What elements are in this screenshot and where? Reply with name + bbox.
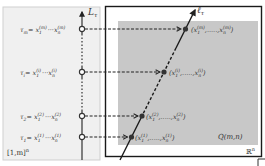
axis-point-2: [79, 113, 84, 118]
corner-mark: [258, 159, 265, 166]
mapped-label-i: (x1(i),.....,xn(i)): [169, 68, 206, 78]
row-tau-2: τ2= x1(2)···xn(2) (x1(2),.....,xn(2)): [20, 112, 186, 122]
mapped-point-2: [139, 113, 144, 118]
axis-point-1: [79, 134, 84, 139]
mapped-point-1: [129, 134, 134, 139]
tau-i-label: τi= x1(i)···xn(i): [20, 68, 57, 78]
mapped-point-m: [183, 26, 188, 31]
mapped-point-i: [161, 69, 166, 74]
axis-point-m: [79, 26, 84, 31]
region-label: Q(m,n): [218, 133, 243, 141]
region-q: [118, 21, 258, 145]
diagram-canvas: Lτ ℓτ τm= x1(m)···xn(m) (x1(m),.....,xn(…: [0, 0, 265, 166]
axis-point-i: [79, 69, 84, 74]
